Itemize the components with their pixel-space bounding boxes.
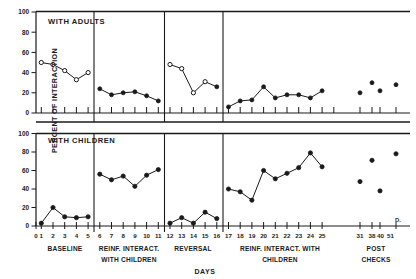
data-point — [297, 93, 301, 97]
x-axis-label: DAYS — [194, 268, 215, 275]
data-point — [203, 210, 207, 214]
y-tick-label: 80 — [22, 29, 30, 36]
x-tick-label: 23 — [295, 232, 302, 239]
chart-svg: 0 20 40 60 80 100 WITH ADULTS — [0, 0, 416, 279]
adults-panel: 0 20 40 60 80 100 WITH ADULTS — [18, 8, 410, 122]
x-tick-label: 15 — [202, 232, 209, 239]
data-point — [63, 215, 67, 219]
x-tick-label: 3 — [63, 232, 67, 239]
data-point — [370, 81, 374, 85]
phase-label-reinf1-line1: REINF. INTERACT. — [99, 245, 159, 252]
adults-series — [39, 60, 398, 109]
data-point — [238, 99, 242, 103]
y-tick-label: 40 — [22, 69, 30, 76]
phase-label-reversal: REVERSAL — [174, 245, 212, 252]
data-point — [394, 83, 398, 87]
data-point — [203, 80, 207, 84]
y-tick-label: 0 — [25, 109, 29, 116]
x-tick-label: 10 — [143, 232, 150, 239]
children-series — [39, 151, 398, 226]
x-tick-label: 7 — [110, 232, 114, 239]
x-tick-label: 2 — [51, 232, 55, 239]
y-axis-label: PERCENT OF INTERACTION — [50, 21, 59, 181]
data-point — [121, 91, 125, 95]
figure-signature: D. — [395, 217, 401, 223]
data-point — [86, 71, 90, 75]
data-point — [285, 171, 289, 175]
data-point — [191, 221, 195, 225]
adults-reinf1-line — [100, 89, 159, 101]
x-tick-label: 18 — [237, 232, 244, 239]
data-point — [156, 99, 160, 103]
data-point — [180, 67, 184, 71]
x-tick-label: 19 — [248, 232, 255, 239]
x-tick-label: 40 — [377, 232, 384, 239]
data-point — [262, 168, 266, 172]
data-point — [238, 190, 242, 194]
data-point — [308, 96, 312, 100]
phase-label-reinf1-line2: WITH CHILDREN — [101, 256, 156, 263]
data-point — [297, 166, 301, 170]
data-point — [156, 168, 160, 172]
data-point — [110, 93, 114, 97]
y-tick-label: 0 — [25, 222, 29, 229]
phase-label-postchecks-line1: POST — [367, 245, 386, 252]
data-point — [121, 174, 125, 178]
x-tick-labels: 0 1 2 3 4 5 6 7 8 9 10 11 12 13 14 15 16… — [34, 232, 394, 239]
children-reinf1-line — [100, 170, 159, 187]
x-tick-label: 0 — [34, 232, 38, 239]
data-point — [370, 158, 374, 162]
x-tick-label: 6 — [98, 232, 102, 239]
data-point — [168, 62, 172, 66]
data-point — [250, 198, 254, 202]
phase-label-postchecks-line2: CHECKS — [361, 256, 390, 263]
x-tick-label: 14 — [190, 232, 197, 239]
data-point — [226, 187, 230, 191]
data-point — [98, 87, 102, 91]
data-point — [180, 216, 184, 220]
x-tick-label: 24 — [307, 232, 314, 239]
x-tick-label: 20 — [260, 232, 267, 239]
x-tick-label: 8 — [121, 232, 125, 239]
data-point — [145, 94, 149, 98]
data-point — [378, 189, 382, 193]
x-tick-label: 5 — [86, 232, 90, 239]
data-point — [250, 98, 254, 102]
phase-label-reinf2-line1: REINF. INTERACT. WITH — [240, 245, 320, 252]
data-point — [308, 151, 312, 155]
y-tick-label: 80 — [22, 148, 30, 155]
data-point — [133, 184, 137, 188]
x-tick-label: 31 — [357, 232, 364, 239]
data-point — [51, 205, 55, 209]
adults-reversal-line — [170, 65, 217, 93]
data-point — [191, 91, 195, 95]
x-tick-label: 21 — [272, 232, 279, 239]
data-point — [168, 221, 172, 225]
x-tick-label: 16 — [213, 232, 220, 239]
y-tick-label: 20 — [22, 89, 30, 96]
x-tick-label: 12 — [167, 232, 174, 239]
data-point — [358, 180, 362, 184]
data-point — [39, 221, 43, 225]
data-point — [74, 216, 78, 220]
data-point — [358, 91, 362, 95]
x-tick-label: 38 — [369, 232, 376, 239]
data-point — [285, 93, 289, 97]
data-point — [133, 90, 137, 94]
data-point — [273, 96, 277, 100]
adults-y-ticks: 0 20 40 60 80 100 — [18, 8, 36, 116]
data-point — [98, 172, 102, 176]
data-point — [378, 89, 382, 93]
data-point — [215, 217, 219, 221]
children-panel: 0 20 40 60 80 100 WITH CHILDREN — [18, 130, 410, 239]
phase-labels: BASELINE REINF. INTERACT. WITH CHILDREN … — [48, 245, 391, 263]
x-tick-label: 11 — [155, 232, 162, 239]
data-point — [262, 85, 266, 89]
data-point — [86, 215, 90, 219]
data-point — [109, 178, 113, 182]
phase-label-reinf2-line2: CHILDREN — [262, 256, 298, 263]
children-y-ticks: 0 20 40 60 80 100 — [18, 130, 36, 230]
x-tick-label: 1 — [40, 232, 44, 239]
x-tick-label: 51 — [387, 232, 394, 239]
data-point — [145, 173, 149, 177]
